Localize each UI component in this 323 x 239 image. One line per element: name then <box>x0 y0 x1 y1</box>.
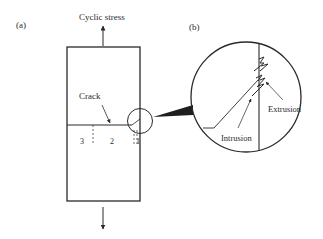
slip-steps <box>252 57 268 96</box>
panel-a-label: (a) <box>16 20 26 30</box>
fatigue-crack-diagram: (a) Cyclic stress Crack 3 2 1 (b) <box>0 0 323 239</box>
stage-label-2: 2 <box>110 137 114 146</box>
extrusion-pointer-arrow-icon <box>266 82 283 100</box>
panel-b-label: (b) <box>189 22 200 32</box>
intrusion-label: Intrusion <box>221 133 252 143</box>
crack-label: Crack <box>79 91 101 101</box>
panel-a: (a) Cyclic stress Crack 3 2 1 <box>16 12 153 229</box>
crack-pointer-arrow-icon <box>102 105 110 123</box>
extrusion-label: Extrusion <box>268 104 302 114</box>
specimen <box>67 47 140 201</box>
stage-label-1: 1 <box>136 137 140 146</box>
intrusion-pointer-arrow-icon <box>238 99 251 128</box>
cyclic-stress-label: Cyclic stress <box>79 12 125 22</box>
crack-tip <box>132 119 140 125</box>
zoom-connector-wedge <box>153 105 193 117</box>
panel-b: (b) Extrusion Intrusion <box>189 22 302 152</box>
stage-label-3: 3 <box>80 137 84 146</box>
slip-band-line <box>203 80 258 128</box>
